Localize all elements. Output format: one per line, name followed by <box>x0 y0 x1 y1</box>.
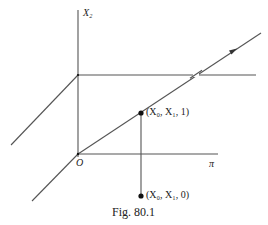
point-upper-label: (X₀, X₁, 1) <box>146 106 189 117</box>
figure-caption: Fig. 80.1 <box>112 205 155 220</box>
point-upper <box>138 110 143 115</box>
origin-label: O <box>76 157 83 168</box>
origin-point <box>77 153 79 155</box>
point-lower-label: (X₀, X₁, 0) <box>146 189 189 200</box>
point-lower <box>138 193 143 198</box>
plane-label-pi: π <box>209 158 214 169</box>
diagram-canvas <box>0 0 268 225</box>
lower-diagonal-line <box>32 154 78 201</box>
corner-point <box>77 74 79 76</box>
axis-label-x2: X₂ <box>83 7 93 18</box>
upper-diagonal-line <box>11 75 78 145</box>
